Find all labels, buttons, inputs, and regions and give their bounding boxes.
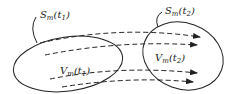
trajectory-arrow-4 [62,80,193,87]
volume-t2-label: Vm(t2) [155,52,185,65]
volume-t1-label: Vm(t1) [60,65,90,78]
diagram-canvas: Sm(t1) Sm(t2) Vm(t1) Vm(t2) [0,0,236,94]
material-volume-diagram: Sm(t1) Sm(t2) Vm(t1) Vm(t2) [0,0,236,94]
volume-t1-ellipse [10,30,126,94]
surface-t1-leader [33,17,37,43]
surface-t1-label: Sm(t1) [40,9,70,22]
surface-t2-label: Sm(t2) [165,5,195,18]
